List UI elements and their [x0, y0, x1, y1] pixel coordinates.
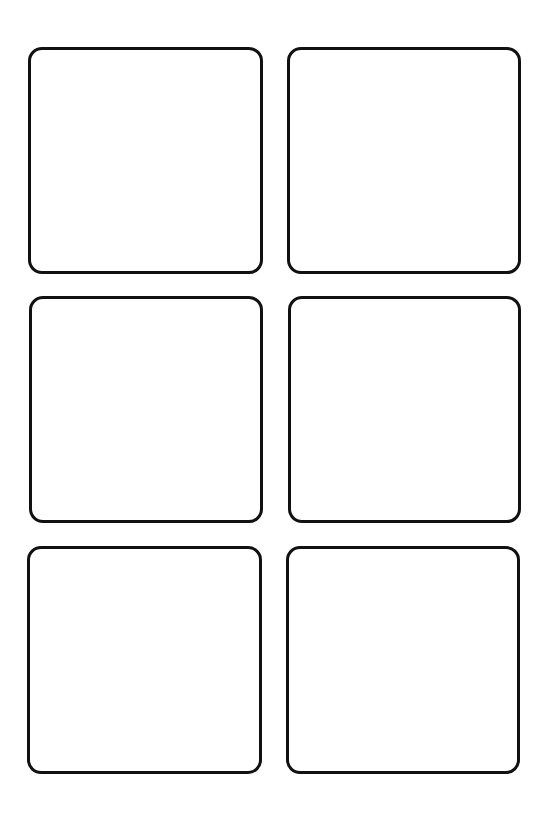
blank-card-r3c2 — [286, 546, 520, 774]
blank-card-r3c1 — [27, 546, 262, 774]
blank-card-r2c1 — [29, 296, 263, 523]
blank-card-r1c1 — [28, 47, 263, 274]
blank-card-r1c2 — [287, 47, 521, 274]
label-sheet — [0, 0, 542, 813]
blank-card-r2c2 — [288, 296, 521, 523]
